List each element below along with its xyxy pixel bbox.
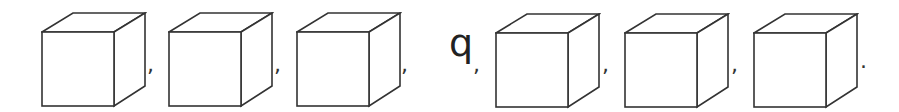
comma-3: , [401,54,408,76]
cube-4 [495,13,601,109]
cube-icon [168,12,274,108]
period: . [860,50,867,72]
comma-5: , [602,54,609,76]
cube-icon [753,13,859,109]
cube-icon [624,13,730,109]
cube-6 [753,13,859,109]
comma-1: , [147,54,154,76]
comma-2: , [274,54,281,76]
cube-icon [41,12,147,108]
cube-1 [41,12,147,108]
comma-4: , [473,54,480,76]
cube-3 [296,12,402,108]
cube-2 [168,12,274,108]
cube-5 [624,13,730,109]
cube-icon [296,12,402,108]
comma-6: , [731,54,738,76]
letter-q: q [449,24,473,62]
cube-icon [495,13,601,109]
